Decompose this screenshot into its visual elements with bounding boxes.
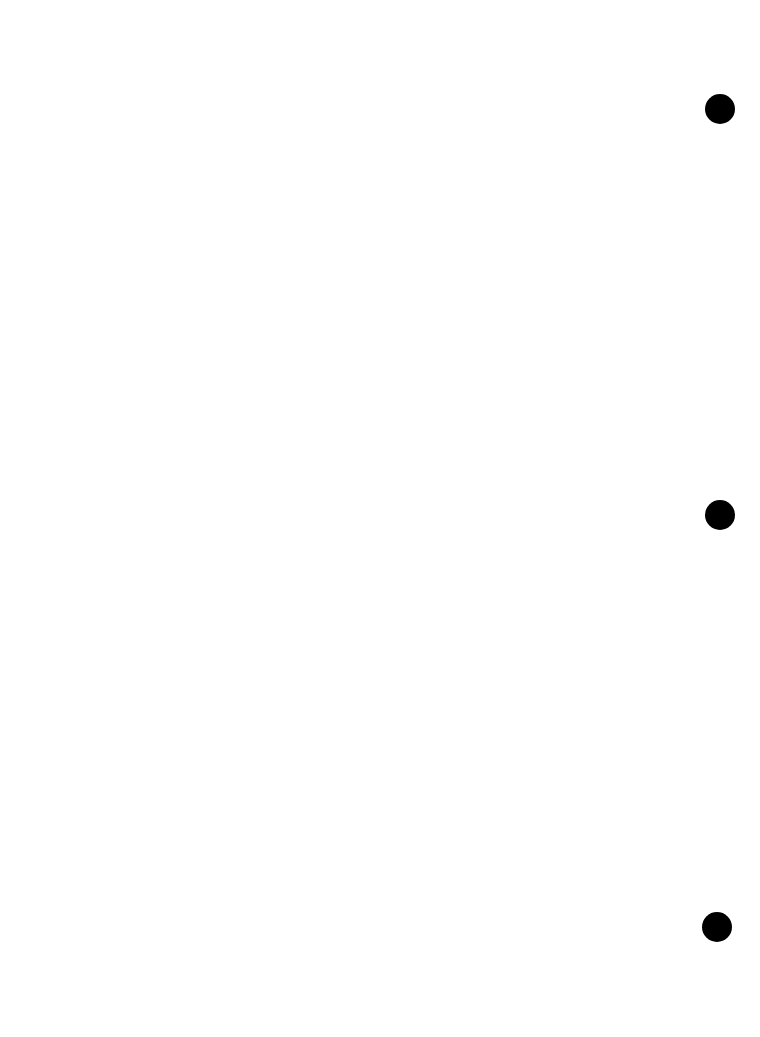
punch-hole-top-icon — [705, 94, 735, 124]
blank-page — [0, 0, 760, 1037]
punch-hole-middle-icon — [705, 500, 735, 530]
punch-hole-bottom-icon — [702, 912, 732, 942]
